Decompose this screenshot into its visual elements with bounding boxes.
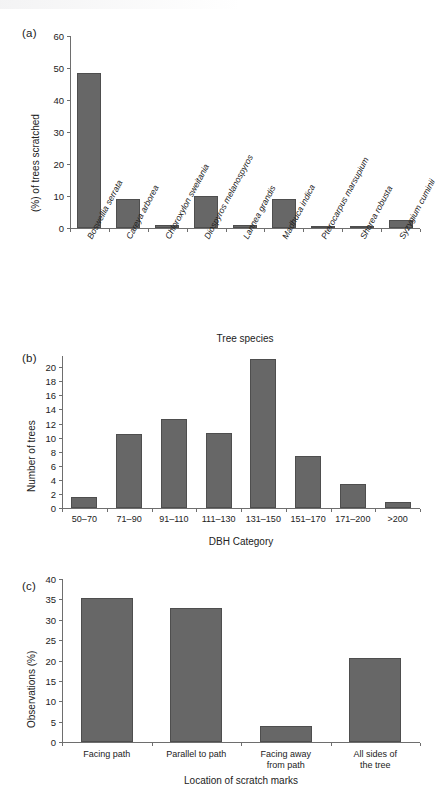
x-category-label: Shorea robusta bbox=[358, 184, 394, 241]
x-tick bbox=[107, 509, 108, 512]
y-tick bbox=[59, 395, 62, 396]
chart-c-plot-area: 0510152025303540Observations (%)Facing p… bbox=[0, 570, 440, 790]
x-tick bbox=[420, 509, 421, 512]
y-tick bbox=[67, 132, 70, 133]
y-tick-label: 40 bbox=[20, 574, 56, 585]
x-tick bbox=[152, 509, 153, 512]
panel-c: (c) 0510152025303540Observations (%)Faci… bbox=[0, 570, 440, 790]
x-category-label: 71–90 bbox=[107, 514, 152, 524]
y-tick-label: 25 bbox=[20, 635, 56, 646]
y-tick bbox=[59, 722, 62, 723]
bar bbox=[385, 502, 411, 508]
bar bbox=[170, 608, 222, 742]
y-axis-title: Observations (%) bbox=[26, 651, 37, 728]
y-tick-label: 40 bbox=[28, 95, 64, 106]
bar bbox=[260, 726, 312, 742]
x-tick bbox=[420, 229, 421, 232]
panel-a: (a) 0102030405060(%) of trees scratchedB… bbox=[0, 0, 440, 340]
y-tick-label: 0 bbox=[20, 737, 56, 748]
x-tick bbox=[62, 743, 63, 746]
y-tick bbox=[59, 424, 62, 425]
y-tick bbox=[59, 494, 62, 495]
y-tick bbox=[59, 620, 62, 621]
x-tick bbox=[241, 509, 242, 512]
x-tick bbox=[148, 229, 149, 232]
x-category-label: Syzygium cuminii bbox=[397, 177, 437, 240]
x-category-label: 131–150 bbox=[241, 514, 286, 524]
y-tick bbox=[59, 480, 62, 481]
y-tick-label: 60 bbox=[28, 31, 64, 42]
y-tick bbox=[67, 164, 70, 165]
x-tick bbox=[62, 509, 63, 512]
y-tick bbox=[59, 681, 62, 682]
x-tick bbox=[226, 229, 227, 232]
x-category-label: 91–110 bbox=[152, 514, 197, 524]
y-tick bbox=[59, 367, 62, 368]
x-category-label: Facing awayfrom path bbox=[241, 749, 331, 771]
x-tick bbox=[70, 229, 71, 232]
bar bbox=[206, 433, 232, 508]
x-tick bbox=[187, 229, 188, 232]
x-tick bbox=[381, 229, 382, 232]
y-axis-line bbox=[70, 36, 71, 228]
y-tick bbox=[59, 438, 62, 439]
chart-a-plot-area: 0102030405060(%) of trees scratchedBoswe… bbox=[0, 0, 440, 340]
x-tick bbox=[375, 509, 376, 512]
x-tick bbox=[303, 229, 304, 232]
x-axis-title: DBH Category bbox=[62, 536, 420, 547]
y-tick-label: 18 bbox=[20, 376, 56, 387]
x-category-label: All sides ofthe tree bbox=[331, 749, 421, 771]
x-tick bbox=[331, 743, 332, 746]
x-category-label: Parallel to path bbox=[152, 749, 242, 759]
y-tick bbox=[67, 100, 70, 101]
x-tick bbox=[342, 229, 343, 232]
y-axis-line bbox=[62, 579, 63, 742]
y-tick bbox=[59, 452, 62, 453]
x-category-label: 151–170 bbox=[286, 514, 331, 524]
y-tick-label: 0 bbox=[20, 503, 56, 514]
y-axis-title: (%) of trees scratched bbox=[30, 114, 41, 212]
x-category-label: Facing path bbox=[62, 749, 152, 759]
bar bbox=[295, 456, 321, 508]
x-category-label: 171–200 bbox=[331, 514, 376, 524]
x-category-label: 111–130 bbox=[196, 514, 241, 524]
bar bbox=[71, 497, 97, 508]
bar bbox=[81, 598, 133, 742]
chart-b-plot-area: 02468101214161820Number of trees50–7071–… bbox=[0, 340, 440, 570]
y-tick bbox=[59, 701, 62, 702]
bar bbox=[340, 484, 366, 508]
y-tick bbox=[59, 466, 62, 467]
y-tick-label: 14 bbox=[20, 404, 56, 415]
y-axis-line bbox=[62, 356, 63, 508]
y-tick-label: 30 bbox=[20, 614, 56, 625]
x-tick bbox=[152, 743, 153, 746]
bar bbox=[116, 434, 142, 508]
y-tick-label: 50 bbox=[28, 63, 64, 74]
x-tick bbox=[286, 509, 287, 512]
figure-page: { "figure": { "panel_a_letter": "(a)", "… bbox=[0, 0, 440, 790]
y-tick-label: 20 bbox=[20, 362, 56, 373]
x-tick bbox=[109, 229, 110, 232]
y-tick bbox=[67, 68, 70, 69]
y-tick bbox=[59, 409, 62, 410]
y-tick-label: 16 bbox=[20, 390, 56, 401]
x-tick bbox=[420, 743, 421, 746]
y-axis-title: Number of trees bbox=[26, 420, 37, 492]
x-category-label: 50–70 bbox=[62, 514, 107, 524]
y-tick bbox=[59, 579, 62, 580]
x-category-label: >200 bbox=[375, 514, 420, 524]
y-tick bbox=[67, 196, 70, 197]
x-tick bbox=[241, 743, 242, 746]
y-tick-label: 0 bbox=[28, 223, 64, 234]
y-tick bbox=[59, 640, 62, 641]
bar bbox=[349, 658, 401, 742]
bar bbox=[77, 73, 101, 228]
bar bbox=[161, 419, 187, 508]
x-tick bbox=[264, 229, 265, 232]
y-tick-label: 35 bbox=[20, 594, 56, 605]
bar bbox=[250, 359, 276, 508]
y-tick bbox=[59, 381, 62, 382]
panel-b: (b) 02468101214161820Number of trees50–7… bbox=[0, 340, 440, 570]
y-tick bbox=[67, 36, 70, 37]
x-axis-title: Location of scratch marks bbox=[62, 775, 420, 786]
